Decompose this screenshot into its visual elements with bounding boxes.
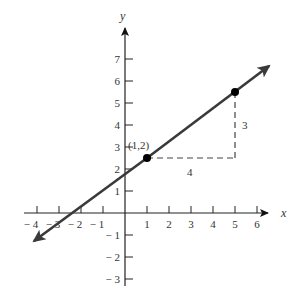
x-tick-label: 2 bbox=[166, 218, 172, 230]
y-tick-label: 5 bbox=[115, 97, 121, 109]
x-ticks bbox=[37, 206, 257, 213]
y-tick-label: − 1 bbox=[106, 229, 120, 241]
x-tick-label: − 4 bbox=[24, 218, 39, 230]
line-forward bbox=[147, 66, 269, 158]
y-tick-label: 3 bbox=[115, 141, 121, 153]
point-5-5 bbox=[231, 88, 239, 96]
x-axis-label: x bbox=[280, 206, 287, 220]
y-tick-label: 4 bbox=[115, 119, 121, 131]
point-1-2 bbox=[143, 154, 151, 162]
y-tick-label: 2 bbox=[115, 163, 121, 175]
point-label: (1,2) bbox=[128, 139, 149, 152]
x-tick-label: 6 bbox=[254, 218, 260, 230]
x-tick-label: − 1 bbox=[90, 218, 104, 230]
y-tick-label: 6 bbox=[115, 75, 121, 87]
x-tick-label: 3 bbox=[188, 218, 194, 230]
y-axis-label: y bbox=[119, 9, 126, 23]
y-tick-label: 7 bbox=[115, 53, 121, 65]
rise-label: 3 bbox=[242, 119, 248, 131]
run-label: 4 bbox=[187, 166, 193, 178]
x-tick-label: 1 bbox=[144, 218, 150, 230]
x-tick-label: 5 bbox=[232, 218, 238, 230]
x-tick-label: − 2 bbox=[68, 218, 82, 230]
y-tick-labels: − 3 − 2 − 1 1 2 3 4 5 6 7 bbox=[106, 53, 121, 285]
y-tick-label: − 2 bbox=[106, 251, 120, 263]
y-tick-label: − 3 bbox=[106, 273, 121, 285]
slope-graph: x y − 4 − 3 − 2 − 1 1 2 3 4 5 6 bbox=[0, 0, 302, 294]
x-tick-label: 4 bbox=[210, 218, 216, 230]
y-tick-label: 1 bbox=[115, 185, 121, 197]
